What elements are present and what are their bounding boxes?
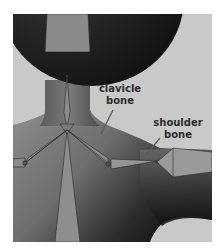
rig-diagram: clavicle bone shoulder bone <box>0 0 224 250</box>
left-shoulder-joint <box>23 161 27 165</box>
shoulder-label-line1: shoulder <box>153 117 202 128</box>
neck-bone-joint <box>66 75 69 78</box>
head-bone <box>45 14 90 52</box>
clavicle-label-line2: bone <box>106 95 134 106</box>
shoulder-label-line2: bone <box>164 129 192 140</box>
clavicle-label-line1: clavicle <box>99 83 141 94</box>
right-shoulder-joint <box>106 162 110 166</box>
